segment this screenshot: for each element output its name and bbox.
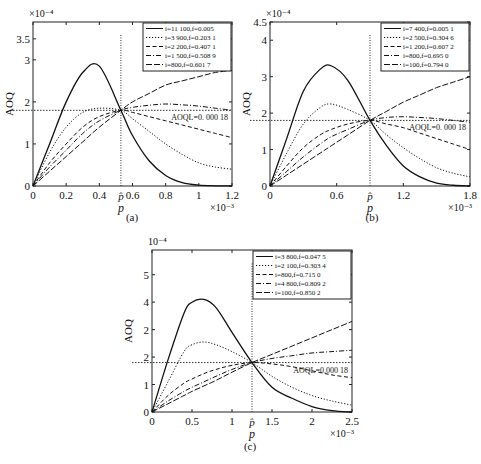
caption-c: (c): [230, 440, 270, 452]
x-tick-label: 0.5: [185, 415, 199, 427]
aoql-label: AOQL=0.000 18: [293, 366, 348, 375]
y-exponent-label: 10⁻⁴: [148, 236, 167, 247]
chart-panel-c: 01224500.511.522.510⁻⁴×10⁻³AOQpp̂AOQL=0.…: [0, 0, 481, 464]
legend-entry: i=4 800,f=0.809 2: [275, 280, 326, 288]
chart-c-svg: 01224500.511.522.510⁻⁴×10⁻³AOQpp̂AOQL=0.…: [0, 0, 481, 464]
y-tick-label: 5: [144, 269, 150, 281]
x-tick-label: 2.5: [345, 415, 359, 427]
y-axis-label: AOQ: [122, 319, 134, 343]
phat-label: p̂: [248, 416, 255, 428]
x-tick-label: 2: [309, 415, 315, 427]
x-axis-label: p: [248, 427, 255, 441]
y-tick-label: 1: [144, 379, 150, 391]
legend-entry: i=2 100,f=0.303 4: [275, 262, 326, 270]
x-tick-label: 1: [229, 415, 235, 427]
x-tick-label: 0: [149, 415, 155, 427]
legend-entry: i=800,f=0.715 0: [275, 271, 321, 279]
legend-entry: i=100,f=0.850 2: [275, 289, 321, 297]
x-tick-label: 1.5: [265, 415, 279, 427]
y-tick-label: 2: [144, 324, 150, 336]
y-tick-label: 2: [144, 351, 150, 363]
y-tick-label: 4: [144, 296, 150, 308]
x-exponent-label: ×10⁻³: [330, 428, 354, 439]
legend: i=3 800,f=0.047 5i=2 100,f=0.303 4i=800,…: [253, 251, 351, 299]
legend-entry: i=3 800,f=0.047 5: [275, 253, 326, 261]
